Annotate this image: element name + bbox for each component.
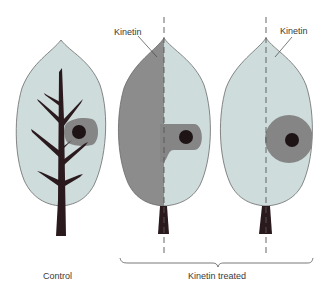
kinetin-leader-line [138, 36, 157, 57]
control-label: Control [43, 271, 72, 281]
kinetin-treated-label: Kinetin treated [188, 271, 246, 281]
diagram-canvas [0, 0, 328, 294]
kinetin-diagram: Kinetin Kinetin Control Kinetin treated [0, 0, 328, 294]
kinetin-label-right: Kinetin [280, 26, 308, 36]
control-leaf [16, 40, 105, 236]
spot-treated-leaf [220, 17, 313, 256]
half-treated-radioactive-spot [179, 130, 193, 144]
half-treated-stem [158, 206, 169, 234]
kinetin-label-middle: Kinetin [114, 27, 142, 37]
spot-treated-stem [259, 206, 272, 234]
kinetin-treated-half [100, 30, 164, 220]
spot-treated-radioactive-spot [285, 133, 299, 147]
kinetin-treated-bracket [120, 258, 313, 267]
half-treated-leaf [100, 17, 228, 256]
control-radioactive-spot [72, 125, 86, 139]
kinetin-leader-line [275, 37, 292, 57]
